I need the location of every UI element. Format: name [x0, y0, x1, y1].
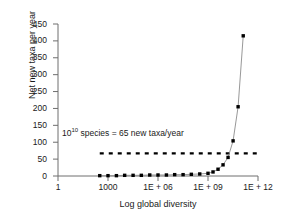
x-tick-label: 1E + 09 [183, 183, 233, 192]
series-marker [216, 168, 219, 171]
series-marker [190, 173, 193, 176]
x-axis-label: Log global diversity [58, 199, 258, 209]
annotation-text: species = 65 new taxa/year [78, 128, 184, 138]
series-marker [173, 173, 176, 176]
series-marker [242, 34, 245, 37]
chart-figure: Net new taxa per year Log global diversi… [0, 0, 308, 219]
series-marker [131, 174, 134, 177]
series-marker [148, 173, 151, 176]
series-marker [140, 174, 143, 177]
series-marker [123, 174, 126, 177]
series-marker [206, 172, 209, 175]
y-tick-label: 50 [19, 155, 47, 164]
series-marker [98, 174, 101, 177]
series-marker-group [98, 34, 245, 177]
series-marker [211, 170, 214, 173]
series-marker [231, 139, 234, 142]
x-tick-label: 1E + 06 [133, 183, 183, 192]
y-tick-label: 0 [19, 172, 47, 181]
series-line-group [100, 36, 243, 176]
series-marker [221, 163, 224, 166]
series-line [100, 36, 243, 176]
series-marker [198, 172, 201, 175]
x-tick-label: 1E + 12 [233, 183, 283, 192]
series-marker [106, 174, 109, 177]
y-tick-label: 350 [19, 53, 47, 62]
series-marker [236, 105, 239, 108]
series-marker [115, 174, 118, 177]
y-tick-label: 450 [19, 20, 47, 29]
series-marker [165, 173, 168, 176]
x-axis-ticks [58, 176, 258, 181]
y-axis-ticks [53, 24, 58, 176]
y-tick-label: 250 [19, 87, 47, 96]
y-tick-label: 150 [19, 121, 47, 130]
y-tick-label: 300 [19, 70, 47, 79]
y-tick-label: 100 [19, 138, 47, 147]
series-marker [181, 173, 184, 176]
x-tick-label: 1000 [83, 183, 133, 192]
series-marker [156, 173, 159, 176]
species-rate-annotation: 1010 species = 65 new taxa/year [62, 127, 184, 138]
x-tick-label: 1 [33, 183, 83, 192]
series-marker [226, 156, 229, 159]
y-tick-label: 400 [19, 36, 47, 45]
y-tick-label: 200 [19, 104, 47, 113]
